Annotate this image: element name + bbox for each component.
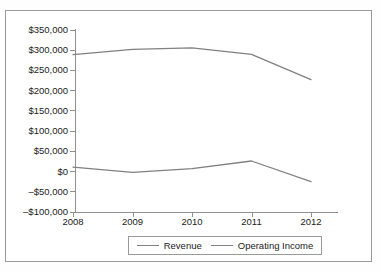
legend-item-operating-income: Operating Income — [211, 241, 314, 251]
chart-figure: $350,000$300,000$250,000$200,000$150,000… — [0, 0, 381, 272]
data-lines — [0, 0, 381, 272]
legend-swatch-revenue — [137, 245, 159, 246]
legend-swatch-operating-income — [211, 245, 233, 246]
plot-area: $350,000$300,000$250,000$200,000$150,000… — [0, 0, 381, 272]
legend-label-operating-income: Operating Income — [238, 241, 314, 251]
line-series-revenue — [73, 48, 311, 80]
legend-label-revenue: Revenue — [164, 241, 202, 251]
legend-item-revenue: Revenue — [137, 241, 202, 251]
chart-legend: Revenue Operating Income — [128, 236, 322, 255]
line-series-operating-income — [73, 161, 311, 182]
